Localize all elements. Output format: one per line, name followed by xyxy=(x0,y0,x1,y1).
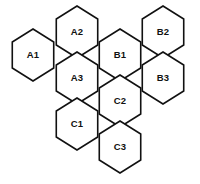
hexagon-label-a2: A2 xyxy=(71,26,84,37)
hexagon-label-a3: A3 xyxy=(71,72,84,83)
hexagon-canvas: A1A2A3B1B2B3C1C2C3 xyxy=(0,0,200,184)
hexagon-label-c3: C3 xyxy=(114,141,127,152)
hexagon-label-b2: B2 xyxy=(157,26,170,37)
hexagon-label-c2: C2 xyxy=(114,95,127,106)
hexagon-diagram: A1A2A3B1B2B3C1C2C3 xyxy=(0,0,200,184)
hexagon-label-b1: B1 xyxy=(114,49,127,60)
hexagon-label-a1: A1 xyxy=(27,49,40,60)
hexagon-label-c1: C1 xyxy=(71,118,84,129)
hexagon-label-b3: B3 xyxy=(157,72,170,83)
